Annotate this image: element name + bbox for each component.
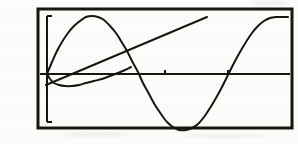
graph-plot: [0, 0, 298, 144]
plot-background: [0, 0, 298, 144]
figure-container: 19. a.: [0, 0, 298, 144]
